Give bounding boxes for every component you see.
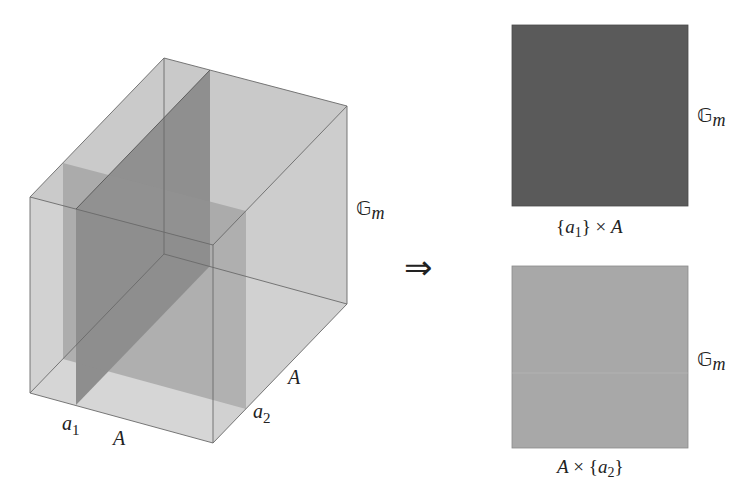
panel-caption: {a1} × A <box>556 216 623 240</box>
cube-a1-label: a1 <box>62 412 80 438</box>
panel-gm-label: 𝔾m <box>697 347 726 374</box>
product-slicing-diagram: 𝔾m A a2 a1 A ⇒ 𝔾m {a1} × A 𝔾m A × {a2} <box>0 0 754 504</box>
cube-width-A-label: A <box>111 427 126 449</box>
panel-A-times-a2: 𝔾m A × {a2} <box>512 266 726 480</box>
implies-arrow: ⇒ <box>404 247 433 287</box>
panel-caption: A × {a2} <box>555 456 624 480</box>
panel-square <box>512 266 688 448</box>
cube-depth-A-label: A <box>286 366 301 388</box>
panel-gm-label: 𝔾m <box>697 103 726 130</box>
cube-figure: 𝔾m A a2 a1 A <box>30 58 385 449</box>
panel-a1-times-A: 𝔾m {a1} × A <box>512 25 726 240</box>
cube-gm-label: 𝔾m <box>356 196 385 223</box>
cube-a2-label: a2 <box>253 400 271 426</box>
panel-square <box>512 25 688 206</box>
